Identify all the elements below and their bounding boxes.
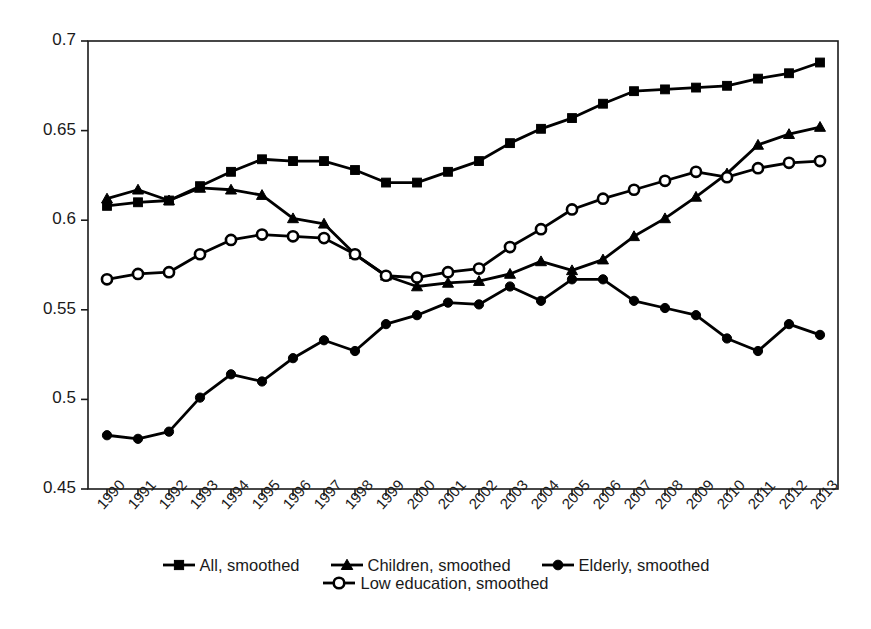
y-axis-tick-label: 0.45 xyxy=(43,478,76,498)
data-point-marker xyxy=(785,69,794,78)
data-point-marker xyxy=(319,336,328,345)
data-point-marker xyxy=(412,311,421,320)
legend-marker-open-circle xyxy=(322,574,356,592)
data-point-marker xyxy=(334,578,345,589)
data-point-marker xyxy=(536,256,547,266)
legend-entry: Elderly, smoothed xyxy=(541,556,710,574)
legend-row: All, smoothedChildren, smoothedElderly, … xyxy=(0,556,871,574)
data-point-marker xyxy=(350,346,359,355)
data-point-marker xyxy=(195,249,205,259)
data-point-marker xyxy=(553,560,563,570)
legend-marker-filled-triangle xyxy=(330,556,364,574)
data-point-marker xyxy=(412,272,422,282)
data-point-marker xyxy=(381,271,391,281)
data-point-marker xyxy=(537,124,546,133)
series-filled-circle xyxy=(102,275,824,444)
data-point-marker xyxy=(722,172,732,182)
y-axis-tick-label: 0.6 xyxy=(52,209,76,229)
legend-entry: Low education, smoothed xyxy=(322,574,548,592)
plot-frame xyxy=(88,41,838,489)
data-point-marker xyxy=(102,431,111,440)
data-point-marker xyxy=(630,87,639,96)
data-point-marker xyxy=(691,167,701,177)
data-point-marker xyxy=(289,157,298,166)
y-axis-tick-label: 0.65 xyxy=(43,120,76,140)
data-point-marker xyxy=(598,275,607,284)
data-point-marker xyxy=(413,178,422,187)
legend-label: Children, smoothed xyxy=(368,557,511,574)
data-point-marker xyxy=(629,231,640,241)
data-point-marker xyxy=(598,194,608,204)
data-point-marker xyxy=(350,249,360,259)
data-point-marker xyxy=(723,81,732,90)
y-axis-tick-label: 0.7 xyxy=(52,30,76,50)
data-point-marker xyxy=(164,267,174,277)
data-point-marker xyxy=(134,198,143,207)
data-point-marker xyxy=(691,311,700,320)
data-point-marker xyxy=(753,163,763,173)
data-point-marker xyxy=(692,83,701,92)
data-point-marker xyxy=(536,224,546,234)
legend-label: Low education, smoothed xyxy=(360,575,548,592)
legend-entry: All, smoothed xyxy=(162,556,300,574)
data-point-marker xyxy=(722,334,731,343)
data-point-marker xyxy=(474,300,483,309)
series-line xyxy=(107,279,820,438)
data-point-marker xyxy=(226,370,235,379)
data-point-marker xyxy=(784,320,793,329)
chart-legend: All, smoothedChildren, smoothedElderly, … xyxy=(0,556,871,592)
data-point-marker xyxy=(536,296,545,305)
data-point-marker xyxy=(195,393,204,402)
data-point-marker xyxy=(257,377,266,386)
data-point-marker xyxy=(444,167,453,176)
series-filled-triangle xyxy=(102,122,826,291)
data-point-marker xyxy=(629,296,638,305)
data-point-marker xyxy=(288,354,297,363)
data-point-marker xyxy=(133,434,142,443)
data-point-marker xyxy=(505,282,514,291)
data-point-marker xyxy=(133,269,143,279)
data-point-marker xyxy=(174,560,183,569)
chart-canvas xyxy=(0,0,871,629)
data-point-marker xyxy=(102,274,112,284)
data-point-marker xyxy=(815,156,825,166)
data-point-marker xyxy=(226,235,236,245)
data-point-marker xyxy=(474,264,484,274)
series-line xyxy=(107,127,820,286)
data-point-marker xyxy=(629,185,639,195)
data-point-marker xyxy=(599,99,608,108)
data-point-marker xyxy=(660,303,669,312)
data-point-marker xyxy=(754,74,763,83)
y-axis-tick-label: 0.5 xyxy=(52,388,76,408)
data-point-marker xyxy=(784,158,794,168)
series-open-circle xyxy=(102,156,825,284)
data-point-marker xyxy=(443,298,452,307)
data-point-marker xyxy=(382,178,391,187)
legend-label: Elderly, smoothed xyxy=(579,557,710,574)
data-point-marker xyxy=(506,139,515,148)
data-point-marker xyxy=(660,176,670,186)
data-point-marker xyxy=(505,242,515,252)
data-point-marker xyxy=(381,320,390,329)
data-point-marker xyxy=(351,166,360,175)
data-point-marker xyxy=(567,275,576,284)
data-point-marker xyxy=(443,267,453,277)
data-point-marker xyxy=(164,427,173,436)
data-point-marker xyxy=(475,157,484,166)
data-point-marker xyxy=(258,155,267,164)
line-chart-figure: 0.70.650.60.550.50.45 199019911992199319… xyxy=(0,0,871,629)
legend-marker-filled-square xyxy=(162,556,196,574)
data-point-marker xyxy=(568,114,577,123)
data-point-marker xyxy=(320,157,329,166)
data-point-marker xyxy=(816,58,825,67)
data-point-marker xyxy=(227,167,236,176)
y-axis-tick-label: 0.55 xyxy=(43,299,76,319)
legend-label: All, smoothed xyxy=(200,557,300,574)
legend-marker-filled-circle xyxy=(541,556,575,574)
data-point-marker xyxy=(815,122,826,132)
data-point-marker xyxy=(753,346,762,355)
data-point-marker xyxy=(661,85,670,94)
legend-row: Low education, smoothed xyxy=(0,574,871,592)
data-point-marker xyxy=(288,231,298,241)
data-point-marker xyxy=(257,229,267,239)
